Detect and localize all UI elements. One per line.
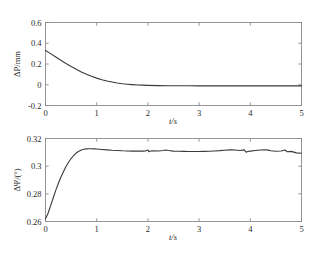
bottom-axes-group: 012345 0.260.280.30.32	[27, 134, 304, 234]
top-x-tick-label: 1	[95, 108, 99, 118]
bottom-y-tick-labels: 0.260.280.30.32	[27, 134, 42, 227]
figure-container: 012345 -0.200.20.40.6 t/s ΔP/mm 012345 0…	[0, 0, 320, 257]
bottom-chart-svg: 012345 0.260.280.30.32 t/s ΔΨ/(°)	[0, 128, 320, 256]
bottom-x-tick-label: 2	[146, 224, 150, 234]
chart-panel-top: 012345 -0.200.20.40.6 t/s ΔP/mm	[0, 0, 320, 128]
top-y-tick-label: 0	[37, 80, 41, 90]
top-data-curve	[46, 51, 302, 86]
bottom-y-tick-label: 0.3	[31, 161, 42, 171]
top-x-tick-label: 3	[197, 108, 201, 118]
top-axes-group: 012345 -0.200.20.40.6	[28, 18, 304, 118]
top-y-tick-labels: -0.200.20.40.6	[28, 18, 42, 111]
top-y-tick-label: 0.2	[31, 59, 42, 69]
bottom-x-tick-label: 4	[248, 224, 253, 234]
top-plot-frame	[46, 23, 302, 106]
top-x-tick-label: 4	[248, 108, 253, 118]
top-x-axis-title: t/s	[169, 116, 178, 126]
top-y-tick-marks	[46, 23, 302, 106]
top-x-tick-label: 2	[146, 108, 150, 118]
bottom-x-tick-label: 0	[43, 224, 47, 234]
bottom-y-axis-title: ΔΨ/(°)	[12, 168, 22, 191]
top-x-tick-label: 5	[299, 108, 303, 118]
top-y-axis-title: ΔP/mm	[12, 51, 22, 77]
top-x-tick-label: 0	[43, 108, 47, 118]
chart-panel-bottom: 012345 0.260.280.30.32 t/s ΔΨ/(°)	[0, 128, 320, 256]
top-chart-svg: 012345 -0.200.20.40.6 t/s ΔP/mm	[0, 0, 320, 128]
top-y-tick-label: 0.6	[31, 18, 42, 28]
top-x-tick-marks	[46, 23, 302, 106]
bottom-x-tick-label: 3	[197, 224, 201, 234]
bottom-y-tick-label: 0.26	[27, 217, 42, 227]
bottom-y-tick-label: 0.28	[27, 189, 42, 199]
bottom-data-curve	[46, 149, 302, 219]
bottom-y-tick-label: 0.32	[27, 134, 42, 144]
top-y-tick-label: 0.4	[31, 38, 42, 48]
bottom-x-tick-label: 5	[299, 224, 303, 234]
bottom-x-axis-title: t/s	[169, 232, 178, 242]
top-y-tick-label: -0.2	[28, 101, 41, 111]
bottom-x-tick-label: 1	[95, 224, 99, 234]
